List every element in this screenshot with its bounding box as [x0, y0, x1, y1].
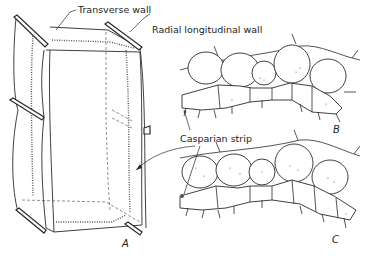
casparian-strip-left: [31, 36, 33, 196]
wall-bar-mid-left: [10, 98, 44, 120]
hidden-vertical-edge: [106, 32, 110, 210]
label-casparian-strip: Casparian strip: [180, 133, 252, 144]
cell-b-1: [188, 52, 224, 84]
cell-b-4: [274, 45, 310, 83]
casparian-strip-right: [126, 50, 130, 212]
cell-c-2: [216, 154, 252, 186]
hidden-strip-edge: [112, 110, 134, 128]
panel-label-c: C: [332, 234, 339, 245]
label-radial-longitudinal-wall: Radial longitudinal wall: [152, 24, 262, 35]
wall-bar-top-left: [14, 15, 48, 47]
cell-left-inner-edge: [42, 50, 46, 228]
wall-notch-right: [144, 126, 150, 134]
label-transverse-wall: Transverse wall: [77, 4, 151, 15]
casparian-dot-c: [180, 194, 184, 198]
leader-arrowhead: [136, 164, 142, 170]
panel-label-a: A: [121, 238, 129, 249]
hidden-bottom-edge: [22, 200, 140, 222]
cell-b-3: [252, 61, 276, 85]
casparian-strip-bottom: [56, 215, 126, 222]
panel-c-cells: [180, 130, 360, 228]
cell-c-4: [275, 144, 313, 182]
wall-bar-bottom-left: [16, 208, 46, 233]
diagram-canvas: Transverse wall Radial longitudinal wall…: [0, 0, 369, 256]
panel-b-cells: [180, 34, 360, 122]
cell-left-outer-edge: [13, 18, 18, 212]
panel-label-b: B: [333, 124, 340, 135]
casparian-strip-top: [52, 40, 134, 48]
endodermis-diagram: Transverse wall Radial longitudinal wall…: [0, 0, 369, 256]
panel-a-cell-drawing: [10, 15, 150, 235]
wall-bar-bottom-right: [125, 222, 142, 235]
leader-transverse-wall: [56, 10, 76, 30]
leader-casparian-strip-b: [184, 110, 190, 130]
leader-radial-wall: [130, 14, 150, 32]
